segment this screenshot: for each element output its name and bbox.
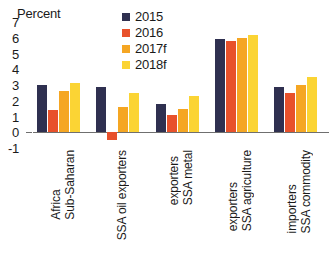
bar[interactable] [59,91,69,132]
x-category-label-line: Africa [49,150,63,220]
bar[interactable] [226,41,236,132]
x-category-label-line: SSA oil exporters [115,150,129,240]
x-category-label-line: SSA commodity [299,150,313,233]
bar[interactable] [178,109,188,133]
bar-chart: Percent 76543210-1 201520162017f2018f Su… [0,0,331,263]
x-category-label-line: importers [285,150,299,233]
x-category-label: Sub-SaharanAfrica [33,150,92,263]
x-category-label-line: exporters [167,150,181,205]
x-category-label-line: exporters [226,150,240,231]
y-tick-label: 3 [12,79,19,92]
bar[interactable] [248,35,258,133]
bar[interactable] [215,39,225,132]
x-category-label: SSA agricultureexporters [211,150,270,263]
bar-group [215,22,258,148]
y-tick-label: 1 [12,111,19,124]
bar[interactable] [37,85,47,132]
bar[interactable] [118,107,128,132]
bar[interactable] [129,93,139,132]
y-tick-label: 0 [12,126,19,139]
x-category-label: SSA metalexporters [151,150,210,263]
y-tick-label: 4 [12,63,19,76]
x-category-label: SSA commodityimporters [270,150,329,263]
zero-tick-mark [26,132,32,133]
plot-area [33,22,329,148]
x-axis-category-labels: Sub-SaharanAfricaSSA oil exportersSSA me… [33,150,329,263]
bar[interactable] [96,87,106,133]
bar-group [37,22,80,148]
legend-swatch-icon [122,13,130,21]
y-tick-label: 7 [12,16,19,29]
bar[interactable] [274,87,284,133]
x-category-label-line: Sub-Saharan [63,150,77,220]
bar-group [156,22,199,148]
bar[interactable] [167,115,177,132]
x-category-label-line: SSA agriculture [240,150,254,231]
y-tick-label: 6 [12,32,19,45]
x-category-label: SSA oil exporters [92,150,151,263]
bar-group [96,22,139,148]
y-tick-label: 2 [12,95,19,108]
y-tick-label: 5 [12,48,19,61]
bar[interactable] [296,85,306,132]
bar[interactable] [189,96,199,132]
bar[interactable] [156,104,166,132]
bar-group [274,22,317,148]
x-category-label-line: SSA metal [181,150,195,205]
y-tick-label: -1 [8,142,19,155]
bar[interactable] [285,93,295,132]
bar[interactable] [237,38,247,133]
bar[interactable] [48,110,58,132]
bar[interactable] [107,132,117,140]
bar[interactable] [307,77,317,132]
bar[interactable] [70,83,80,132]
